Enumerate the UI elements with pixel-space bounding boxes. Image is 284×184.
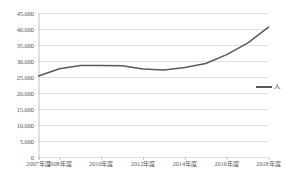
chart-plot-area	[0, 0, 284, 184]
x-tick-label: 2018年度	[256, 159, 280, 168]
x-tick-label: 2014年度	[173, 159, 197, 168]
data-series	[39, 27, 269, 76]
series-line-people	[39, 27, 269, 76]
legend-line-swatch	[256, 86, 272, 88]
x-tick-label: 2010年度	[89, 159, 113, 168]
axis-lines	[39, 13, 269, 160]
x-tick-label: 2012年度	[131, 159, 155, 168]
chart-legend: 人	[256, 84, 284, 91]
x-tick-label: 2016年度	[214, 159, 238, 168]
x-tick-label: 2008年度	[47, 159, 71, 168]
gridlines	[39, 14, 269, 158]
line-chart: 05,00010,00015,00020,00025,00030,00035,0…	[0, 0, 284, 184]
legend-label-people: 人	[274, 84, 281, 91]
